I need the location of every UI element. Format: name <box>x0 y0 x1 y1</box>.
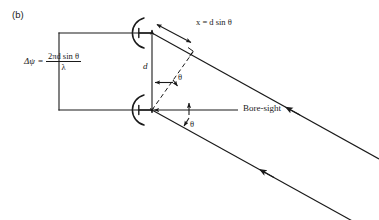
incoming-ray-top-arrow <box>288 108 300 115</box>
label-path-difference: x = d sin θ <box>196 18 232 27</box>
formula-fraction: 2πd sin θ λ <box>46 52 81 71</box>
label-angle-lower: θ <box>190 120 194 129</box>
formula-numerator: 2πd sin θ <box>46 52 81 61</box>
label-angle-upper: θ <box>178 73 182 82</box>
incoming-ray-bottom <box>152 110 356 220</box>
phase-difference-formula: Δψ= 2πd sin θ λ <box>24 52 81 71</box>
label-boresight: Bore-sight <box>243 104 281 113</box>
formula-denominator: λ <box>46 63 81 72</box>
path-difference-dimension <box>157 25 191 43</box>
wavefront-line <box>152 52 193 110</box>
diagram-svg <box>0 0 379 220</box>
incoming-ray-top <box>152 33 379 159</box>
label-spacing-d: d <box>143 62 148 71</box>
formula-equals: = <box>35 56 46 66</box>
incoming-ray-bottom-arrow <box>262 171 274 178</box>
figure-canvas: (b) Δψ= 2πd sin θ λ x = d sin θ d θ θ Bo… <box>0 0 379 220</box>
angle-marker-lower <box>184 103 189 126</box>
formula-lhs: Δψ <box>24 56 35 66</box>
panel-label: (b) <box>12 10 24 20</box>
angle-marker-upper <box>155 80 178 86</box>
